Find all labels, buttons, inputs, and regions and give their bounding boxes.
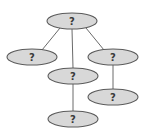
node-label: ?	[70, 71, 76, 82]
node-middle: ?	[48, 68, 98, 84]
node-label: ?	[110, 52, 116, 63]
node-left: ?	[7, 49, 57, 65]
node-label: ?	[69, 16, 75, 27]
node-label: ?	[110, 92, 116, 103]
edge-root-middle	[72, 29, 73, 68]
node-label: ?	[70, 114, 76, 125]
edge-root-right	[86, 28, 104, 50]
node-right: ?	[88, 49, 138, 65]
node-right-child: ?	[88, 89, 138, 105]
node-middle-child: ?	[48, 111, 98, 127]
edge-root-left	[42, 28, 60, 50]
node-root: ?	[47, 13, 97, 29]
tree-diagram: ? ? ? ? ? ?	[0, 0, 147, 136]
node-label: ?	[29, 52, 35, 63]
